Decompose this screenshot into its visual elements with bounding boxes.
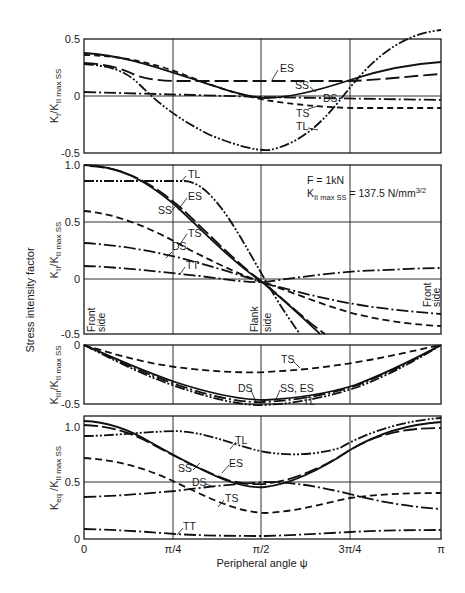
p4-label-tt: TT — [183, 520, 196, 532]
p1-ytick-0: 0.5 — [65, 33, 80, 45]
p1-ylabel: KI/KII max SS — [48, 69, 63, 124]
front-side-right-label-2: side — [430, 288, 442, 307]
panel-k3: 0 -0.5 KIII/KII max SS TS DS SS, ES TL — [48, 339, 441, 410]
p3-label-ds: DS — [238, 382, 253, 394]
flank-side-label-2: side — [261, 313, 273, 332]
p2-label-tt: TT — [186, 259, 199, 271]
p4-ytick-0: 1.0 — [65, 421, 80, 433]
p1-label-ss: SS — [295, 79, 309, 91]
panel-k3-frame — [84, 345, 441, 404]
p1-ytick-1: 0 — [74, 90, 80, 102]
p4-label-ds: DS — [192, 476, 207, 488]
xtick-0: 0 — [81, 543, 87, 555]
note-kmax: KII max SS = 137.5 N/mm3/2 — [307, 186, 426, 202]
p2-ytick-1: 0.5 — [65, 216, 80, 228]
xtick-3pi4: 3π/4 — [339, 543, 362, 555]
note-force: F = 1kN — [307, 174, 344, 186]
p4-label-tl: TL — [235, 434, 247, 446]
p2-label-ds: DS — [172, 240, 187, 252]
flank-side-label: Flank — [248, 306, 260, 332]
p3-ylabel: KIII/KII max SS — [48, 345, 63, 404]
p4-ytick-2: 0 — [74, 533, 80, 545]
x-axis-label: Peripheral angle ψ — [216, 557, 307, 569]
p1-label-ts: TS — [296, 107, 309, 119]
xtick-pi2: π/2 — [253, 543, 270, 555]
p2-ytick-0: 1.0 — [65, 159, 80, 171]
p2-label-ts: TS — [188, 227, 201, 239]
p3-ytick-1: -0.5 — [61, 398, 80, 410]
p2-label-tl: TL — [188, 168, 200, 180]
p3-label-ts: TS — [281, 353, 294, 365]
p4-label-es: ES — [229, 457, 243, 469]
panel-k1: 0.5 0 -0.5 KI/KII max SS ES SS DS TS TL — [48, 30, 441, 159]
xtick-pi4: π/4 — [165, 543, 182, 555]
shared-y-axis-label: Stress intensity factor — [24, 247, 36, 352]
stress-intensity-figure: Stress intensity factor 0.5 0 -0.5 KI/KI… — [0, 0, 465, 593]
p1-curve-es — [84, 63, 441, 81]
panel-k2: 1.0 0.5 0 -0.5 KII/KII max SS F = 1kN KI… — [48, 159, 442, 340]
p2-ytick-2: 0 — [74, 273, 80, 285]
p2-ylabel: KII/KII max SS — [48, 222, 63, 279]
front-side-left-label-2: side — [95, 313, 107, 332]
p2-label-ss: SS — [158, 204, 172, 216]
p1-label-es: ES — [280, 62, 294, 74]
p4-label-ss: SS — [178, 462, 192, 474]
p3-label-ss-es: SS, ES — [280, 382, 314, 394]
p1-label-ds: DS — [323, 92, 338, 104]
p4-ytick-1: 0.5 — [65, 476, 80, 488]
p4-ylabel: Keq /KII max SS — [48, 446, 63, 510]
p3-ytick-0: 0 — [74, 339, 80, 351]
p4-label-ts: TS — [225, 492, 238, 504]
p3-label-tl: TL — [303, 395, 315, 407]
panel-keq: 1.0 0.5 0 Keq /KII max SS TL SS ES DS TS… — [48, 416, 441, 545]
p1-label-tl: TL — [296, 120, 308, 132]
p2-label-es: ES — [188, 190, 202, 202]
x-axis: 0 π/4 π/2 3π/4 π Peripheral angle ψ — [81, 543, 445, 569]
p1-ytick-2: -0.5 — [61, 147, 80, 159]
xtick-pi: π — [437, 543, 445, 555]
